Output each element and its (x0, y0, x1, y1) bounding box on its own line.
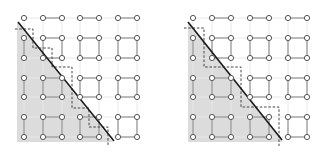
node-circle-icon (209, 114, 214, 119)
node-circle-icon (59, 35, 64, 40)
node-circle-icon (134, 35, 139, 40)
node-circle-icon (247, 94, 252, 99)
node-circle-icon (21, 15, 26, 20)
node-circle-icon (247, 114, 252, 119)
node-circle-icon (285, 35, 290, 40)
node-circle-icon (285, 94, 290, 99)
node-circle-icon (59, 15, 64, 20)
node-circle-icon (40, 35, 45, 40)
node-circle-icon (21, 94, 26, 99)
node-circle-icon (96, 75, 101, 80)
node-circle-icon (190, 55, 195, 60)
node-circle-icon (247, 35, 252, 40)
node-circle-icon (77, 134, 82, 139)
node-circle-icon (77, 114, 82, 119)
node-circle-icon (96, 134, 101, 139)
node-circle-icon (266, 55, 271, 60)
node-circle-icon (209, 55, 214, 60)
node-circle-icon (285, 114, 290, 119)
node-circle-icon (134, 15, 139, 20)
node-circle-icon (40, 134, 45, 139)
node-circle-icon (59, 134, 64, 139)
node-circle-icon (134, 134, 139, 139)
node-circle-icon (21, 35, 26, 40)
node-circle-icon (209, 75, 214, 80)
left-panel (15, 15, 140, 146)
node-circle-icon (115, 35, 120, 40)
node-circle-icon (21, 55, 26, 60)
node-circle-icon (190, 15, 195, 20)
node-circle-icon (228, 94, 233, 99)
node-circle-icon (115, 94, 120, 99)
diagram-stage (0, 0, 325, 151)
right-panel (184, 15, 310, 146)
node-circle-icon (228, 55, 233, 60)
node-circle-icon (266, 114, 271, 119)
node-circle-icon (285, 75, 290, 80)
node-circle-icon (96, 114, 101, 119)
node-circle-icon (247, 15, 252, 20)
node-circle-icon (115, 55, 120, 60)
node-circle-icon (304, 35, 309, 40)
node-circle-icon (115, 114, 120, 119)
node-circle-icon (247, 75, 252, 80)
node-circle-icon (285, 134, 290, 139)
node-circle-icon (266, 35, 271, 40)
node-circle-icon (304, 94, 309, 99)
node-circle-icon (190, 35, 195, 40)
node-circle-icon (304, 75, 309, 80)
node-circle-icon (190, 114, 195, 119)
node-circle-icon (77, 94, 82, 99)
node-circle-icon (304, 134, 309, 139)
node-circle-icon (228, 75, 233, 80)
node-circle-icon (228, 134, 233, 139)
node-circle-icon (228, 114, 233, 119)
node-circle-icon (190, 134, 195, 139)
node-circle-icon (247, 55, 252, 60)
node-circle-icon (77, 15, 82, 20)
node-circle-icon (115, 15, 120, 20)
node-circle-icon (247, 134, 252, 139)
node-circle-icon (190, 75, 195, 80)
node-circle-icon (209, 94, 214, 99)
node-circle-icon (40, 94, 45, 99)
node-circle-icon (96, 35, 101, 40)
node-circle-icon (228, 35, 233, 40)
node-circle-icon (134, 55, 139, 60)
node-circle-icon (266, 134, 271, 139)
node-circle-icon (209, 35, 214, 40)
node-circle-icon (59, 75, 64, 80)
left-panel (0, 0, 325, 151)
node-circle-icon (266, 15, 271, 20)
node-circle-icon (77, 75, 82, 80)
node-circle-icon (59, 94, 64, 99)
node-circle-icon (266, 75, 271, 80)
node-circle-icon (304, 114, 309, 119)
node-circle-icon (304, 15, 309, 20)
node-circle-icon (285, 15, 290, 20)
node-circle-icon (59, 114, 64, 119)
node-circle-icon (209, 134, 214, 139)
node-circle-icon (40, 15, 45, 20)
node-circle-icon (134, 114, 139, 119)
node-circle-icon (115, 75, 120, 80)
node-circle-icon (228, 15, 233, 20)
node-circle-icon (134, 75, 139, 80)
node-circle-icon (59, 55, 64, 60)
node-circle-icon (115, 134, 120, 139)
node-circle-icon (21, 75, 26, 80)
node-circle-icon (285, 55, 290, 60)
node-circle-icon (77, 55, 82, 60)
node-circle-icon (209, 15, 214, 20)
node-circle-icon (134, 94, 139, 99)
node-circle-icon (21, 134, 26, 139)
node-circle-icon (40, 114, 45, 119)
node-circle-icon (40, 75, 45, 80)
node-circle-icon (77, 35, 82, 40)
node-circle-icon (21, 114, 26, 119)
node-circle-icon (96, 55, 101, 60)
node-circle-icon (96, 15, 101, 20)
node-circle-icon (96, 94, 101, 99)
node-circle-icon (266, 94, 271, 99)
node-circle-icon (304, 55, 309, 60)
